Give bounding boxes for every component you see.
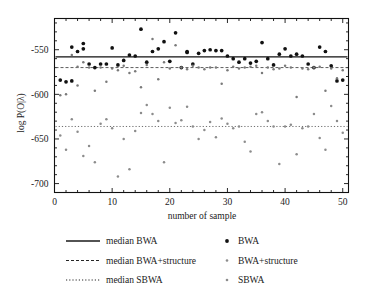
- data-point: [301, 67, 304, 70]
- data-point: [157, 120, 160, 123]
- data-point: [272, 125, 275, 128]
- data-point: [203, 68, 206, 71]
- legend-label-series: BWA: [238, 236, 259, 246]
- data-point: [330, 105, 333, 108]
- data-point: [59, 134, 62, 137]
- data-point: [197, 66, 200, 69]
- data-point: [94, 161, 97, 164]
- data-point: [87, 62, 91, 66]
- data-point: [105, 62, 109, 66]
- data-point: [122, 138, 125, 141]
- data-point: [117, 69, 120, 72]
- x-tick-label: 20: [165, 197, 175, 207]
- data-point: [289, 54, 293, 58]
- chart-background: [0, 0, 368, 297]
- legend-dot-swatch: [226, 259, 229, 262]
- data-point: [232, 127, 235, 130]
- data-point: [249, 65, 252, 68]
- data-point: [301, 54, 305, 58]
- data-point: [324, 50, 328, 54]
- data-point: [318, 65, 321, 68]
- data-point: [65, 93, 68, 96]
- data-point: [180, 66, 183, 69]
- data-point: [284, 125, 287, 128]
- data-point: [99, 123, 102, 126]
- data-point: [238, 125, 241, 128]
- x-tick-label: 40: [280, 197, 290, 207]
- data-point: [134, 130, 137, 133]
- data-point: [169, 67, 172, 70]
- data-point: [278, 67, 281, 70]
- data-point: [168, 59, 172, 63]
- data-point: [76, 84, 79, 87]
- data-point: [249, 61, 253, 65]
- data-point: [128, 168, 131, 171]
- x-tick-label: 10: [107, 197, 117, 207]
- data-point: [81, 42, 85, 46]
- data-point: [209, 121, 212, 124]
- data-point: [71, 54, 74, 57]
- data-point: [336, 120, 339, 123]
- data-point: [226, 54, 230, 58]
- data-point: [140, 86, 143, 89]
- data-point: [185, 51, 189, 55]
- legend-label-series: SBWA: [238, 275, 265, 285]
- legend-dot-swatch: [226, 279, 229, 282]
- figure-root: 01020304050-550-600-650-700 median BWABW…: [0, 0, 368, 297]
- data-point: [208, 48, 212, 52]
- data-point: [163, 161, 166, 164]
- data-point: [174, 31, 178, 35]
- data-point: [226, 69, 229, 72]
- data-point: [232, 65, 235, 68]
- data-point: [330, 67, 333, 70]
- data-point: [260, 41, 264, 45]
- data-point: [122, 59, 126, 63]
- data-point: [255, 113, 258, 116]
- data-point: [94, 90, 97, 93]
- data-point: [174, 122, 177, 125]
- y-tick-label: -550: [31, 45, 49, 55]
- data-point: [140, 112, 143, 115]
- data-point: [151, 113, 154, 116]
- x-tick-label: 30: [223, 197, 233, 207]
- data-point: [93, 66, 97, 70]
- data-point: [88, 145, 91, 148]
- data-point: [238, 67, 241, 70]
- data-point: [174, 44, 177, 47]
- data-point: [59, 94, 62, 97]
- data-point: [197, 51, 201, 55]
- data-point: [58, 78, 62, 82]
- data-point: [329, 64, 333, 68]
- data-point: [105, 81, 108, 84]
- legend-label-median: median BWA: [106, 236, 158, 246]
- data-point: [215, 136, 218, 139]
- data-point: [278, 163, 281, 166]
- data-point: [111, 127, 114, 130]
- data-point: [151, 38, 154, 41]
- legend-label-median: median BWA+structure: [106, 256, 196, 266]
- data-point: [324, 90, 327, 93]
- data-point: [139, 27, 143, 31]
- data-point: [209, 66, 212, 69]
- y-tick-label: -650: [31, 134, 49, 144]
- data-point: [295, 153, 298, 156]
- legend-dot-swatch: [225, 239, 229, 243]
- data-point: [82, 155, 85, 158]
- data-point: [261, 72, 264, 75]
- y-tick-label: -600: [31, 90, 49, 100]
- data-point: [186, 68, 189, 71]
- data-point: [134, 70, 137, 73]
- y-tick-label: -700: [31, 179, 49, 189]
- data-point: [307, 68, 310, 71]
- x-axis-label: number of sample: [168, 211, 237, 221]
- data-point: [243, 57, 247, 61]
- y-axis-label: log P(O|λ): [16, 93, 27, 133]
- data-point: [283, 47, 287, 51]
- data-point: [318, 45, 322, 49]
- data-point: [203, 129, 206, 132]
- data-point: [295, 96, 298, 99]
- x-tick-label: 0: [52, 197, 57, 207]
- data-point: [105, 118, 108, 121]
- data-point: [255, 65, 258, 68]
- data-point: [70, 45, 74, 49]
